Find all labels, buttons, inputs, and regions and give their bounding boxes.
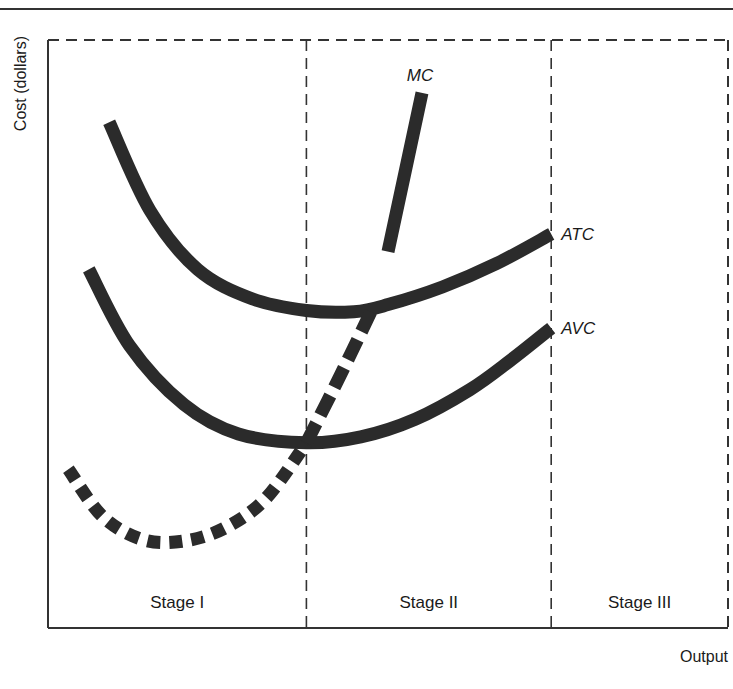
y-axis-label: Cost (dollars)	[12, 36, 29, 131]
stage-label-2: Stage II	[399, 593, 458, 612]
mc-curve-dashed	[306, 312, 371, 443]
x-axis-label: Output	[680, 648, 729, 665]
mc-curve-dotted	[68, 443, 306, 543]
curves	[68, 93, 551, 543]
mc-curve-solid	[388, 93, 422, 252]
stage-label-1: Stage I	[150, 593, 204, 612]
curve-label-avc: AVC	[560, 319, 596, 338]
stage-label-3: Stage III	[608, 593, 671, 612]
avc-curve	[89, 269, 551, 443]
curve-label-mc: MC	[407, 66, 434, 85]
curve-label-atc: ATC	[560, 225, 594, 244]
cost-curves-chart: Cost (dollars) Output Stage I Stage II S…	[0, 0, 733, 689]
atc-curve	[109, 122, 551, 312]
